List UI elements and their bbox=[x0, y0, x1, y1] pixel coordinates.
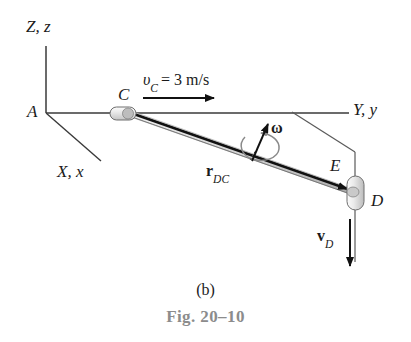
velocity-d-label: vD bbox=[317, 228, 333, 248]
rdc-vector-arrow bbox=[133, 114, 347, 189]
point-label-a: A bbox=[27, 103, 37, 120]
collar-c-bore bbox=[123, 108, 134, 119]
vd-subscript: D bbox=[325, 238, 333, 250]
axis-label-y: Y, y bbox=[353, 101, 377, 118]
vc-value: = 3 m/s bbox=[161, 71, 209, 88]
figure-caption: Fig. 20–10 bbox=[0, 308, 411, 325]
point-label-c: C bbox=[118, 86, 129, 103]
rdc-subscript: DC bbox=[213, 173, 229, 185]
axis-label-x: X, x bbox=[57, 163, 83, 180]
figure-container: Z, z X, x Y, y A C D E υC= 3 m/s ω rDC v… bbox=[0, 0, 411, 342]
vd-symbol: v bbox=[317, 227, 325, 244]
point-label-e: E bbox=[330, 157, 340, 174]
point-label-d: D bbox=[371, 192, 383, 209]
collar-d-bore bbox=[347, 187, 359, 197]
rdc-label: rDC bbox=[206, 163, 229, 183]
collar-d bbox=[347, 176, 364, 210]
part-caption: (b) bbox=[0, 282, 411, 298]
omega-vector-arrow bbox=[252, 124, 268, 161]
guide-diagonal-line bbox=[292, 112, 355, 152]
x-axis-line bbox=[46, 113, 101, 161]
coordinate-axes bbox=[46, 46, 349, 161]
collar-c bbox=[110, 107, 136, 120]
omega-label: ω bbox=[271, 120, 283, 136]
rod-edge-bottom bbox=[132, 117, 353, 195]
vc-subscript: C bbox=[150, 82, 158, 94]
axis-label-z: Z, z bbox=[26, 18, 51, 35]
velocity-c-label: υC= 3 m/s bbox=[143, 72, 209, 92]
